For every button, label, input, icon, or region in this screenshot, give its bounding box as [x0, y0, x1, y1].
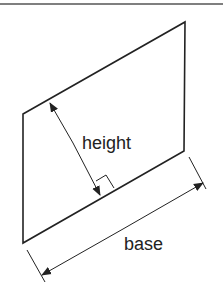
- height-arrow: [50, 103, 73, 143]
- height-label: height: [82, 133, 131, 153]
- parallelogram-diagram: height base: [0, 0, 223, 292]
- base-extension-left: [27, 250, 45, 282]
- base-extension-right: [189, 157, 206, 189]
- base-label: base: [124, 234, 163, 254]
- right-angle-marker: [96, 175, 114, 188]
- base-arrow-left: [42, 229, 123, 275]
- base-arrow: [123, 183, 203, 229]
